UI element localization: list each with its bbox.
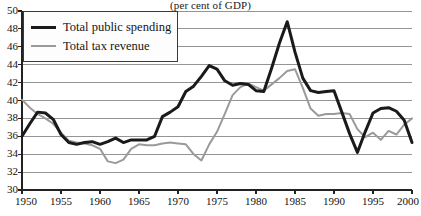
y-tick-label: 40 xyxy=(0,95,18,106)
y-tick-label: 42 xyxy=(0,77,18,88)
x-tick-label: 2000 xyxy=(388,196,421,207)
legend-swatch-revenue xyxy=(31,45,56,47)
x-tick-label: 1950 xyxy=(6,196,46,207)
y-tick-label: 50 xyxy=(0,5,18,16)
x-tick-label: 1975 xyxy=(197,196,237,207)
y-tick-label: 48 xyxy=(0,23,18,34)
legend-label-revenue: Total tax revenue xyxy=(63,40,150,53)
y-tick-label: 46 xyxy=(0,41,18,52)
x-tick-label: 1980 xyxy=(236,196,276,207)
legend-item-total-tax-revenue: Total tax revenue xyxy=(31,36,150,56)
x-tick-label: 1960 xyxy=(80,196,120,207)
x-tick-label: 1990 xyxy=(314,196,354,207)
x-tick-label: 1985 xyxy=(275,196,315,207)
legend-label-spending: Total public spending xyxy=(63,21,171,34)
y-tick-label: 34 xyxy=(0,148,18,159)
legend-swatch-spending xyxy=(31,26,56,29)
y-tick-label: 32 xyxy=(0,166,18,177)
x-tick-label: 1965 xyxy=(119,196,159,207)
y-tick-label: 44 xyxy=(0,59,18,70)
chart-legend: Total public spending Total tax revenue xyxy=(23,11,178,62)
chart-container: (per cent of GDP) 3032343638404244464850… xyxy=(0,0,421,216)
y-tick-label: 30 xyxy=(0,184,18,195)
y-tick-label: 36 xyxy=(0,130,18,141)
x-tick-label: 1995 xyxy=(353,196,393,207)
x-tick-label: 1955 xyxy=(41,196,81,207)
x-tick-label: 1970 xyxy=(158,196,198,207)
legend-item-total-public-spending: Total public spending xyxy=(31,17,171,37)
y-tick-label: 38 xyxy=(0,112,18,123)
